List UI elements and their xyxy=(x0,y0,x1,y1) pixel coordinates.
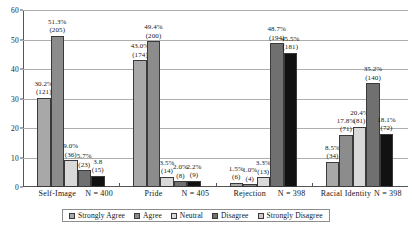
bar-count-label: (181) xyxy=(281,43,300,52)
bar-percent-label: 8.5% xyxy=(325,144,340,153)
bar-value-label: 2.2%(9) xyxy=(187,163,202,180)
legend-item[interactable]: Disagree xyxy=(212,211,248,220)
bar-group: 30.2%(121)51.3%(205)9.0%(36)5.7%(23)3.8(… xyxy=(23,10,119,187)
legend-swatch-icon xyxy=(258,213,264,219)
y-tick-label: 60 xyxy=(11,6,19,15)
bar[interactable] xyxy=(78,170,92,187)
bar-group-bars: 1.5%(6)1.0%(4)3.3%(13)48.7%(194)45.5%(18… xyxy=(216,10,312,187)
bar[interactable] xyxy=(64,160,78,187)
bar-group-bars: 8.5%(34)17.8%(71)20.4%(81)35.2%(140)18.1… xyxy=(312,10,408,187)
y-tick-label: 0 xyxy=(15,183,19,192)
bar[interactable] xyxy=(230,183,244,187)
bar[interactable] xyxy=(243,184,257,187)
x-category-label: Rejection xyxy=(234,189,266,198)
bar[interactable] xyxy=(353,127,367,187)
legend-item[interactable]: Strongly Disagree xyxy=(258,211,323,220)
legend-swatch-icon xyxy=(134,213,140,219)
bar[interactable] xyxy=(147,41,161,187)
bar[interactable] xyxy=(284,53,298,187)
bar-slot: 2.0%(8) xyxy=(174,10,188,187)
y-tick-label: 50 xyxy=(11,35,19,44)
bar[interactable] xyxy=(91,176,105,187)
bar-count-label: (15) xyxy=(92,166,104,175)
bar-count-label: (72) xyxy=(377,124,396,133)
bar-count-label: (23) xyxy=(77,161,92,170)
legend-label: Agree xyxy=(143,211,162,220)
bar-slot: 20.4%(81) xyxy=(353,10,367,187)
plot-area: 0102030405060 30.2%(121)51.3%(205)9.0%(3… xyxy=(23,10,408,187)
bar-group-bars: 30.2%(121)51.3%(205)9.0%(36)5.7%(23)3.8(… xyxy=(23,10,119,187)
bar-percent-label: 2.2% xyxy=(187,163,202,172)
bar-percent-label: 9.0% xyxy=(63,142,78,151)
legend-swatch-icon xyxy=(212,213,218,219)
x-sample-size-label: N = 400 xyxy=(85,189,113,198)
bar-value-label: 8.5%(34) xyxy=(325,144,340,161)
bar-slot: 45.5%(181) xyxy=(284,10,298,187)
bar-group: 43.0%(174)49.4%(200)3.5%(14)2.0%(8)2.2%(… xyxy=(119,10,215,187)
bar-value-label: 45.5%(181) xyxy=(281,35,300,52)
bar-slot: 2.2%(9) xyxy=(187,10,201,187)
bar-percent-label: 45.5% xyxy=(281,35,300,44)
bar-slot: 1.5%(6) xyxy=(230,10,244,187)
bar-slot: 3.5%(14) xyxy=(160,10,174,187)
bar-group: 8.5%(34)17.8%(71)20.4%(81)35.2%(140)18.1… xyxy=(312,10,408,187)
bar-value-label: 3.8(15) xyxy=(92,158,104,175)
legend-label: Disagree xyxy=(221,211,248,220)
bar-count-label: (34) xyxy=(325,152,340,161)
bar-value-label: 3.3%(13) xyxy=(256,159,271,176)
bar-percent-label: 18.1% xyxy=(377,116,396,125)
bar-slot: 35.2%(140) xyxy=(366,10,380,187)
y-tick-label: 30 xyxy=(11,94,19,103)
bar[interactable] xyxy=(133,60,147,187)
bar[interactable] xyxy=(270,43,284,187)
bar-slot: 51.3%(205) xyxy=(51,10,65,187)
bar-percent-label: 5.7% xyxy=(77,152,92,161)
bar[interactable] xyxy=(51,36,65,187)
y-tick-label: 10 xyxy=(11,153,19,162)
legend-label: Neutral xyxy=(180,211,203,220)
grouped-bar-chart: 0102030405060 30.2%(121)51.3%(205)9.0%(3… xyxy=(0,0,412,234)
bar-slot: 9.0%(36) xyxy=(64,10,78,187)
bar[interactable] xyxy=(174,181,188,187)
bar-slot: 3.8(15) xyxy=(91,10,105,187)
x-axis-labels: Self-ImageN = 400PrideN = 405RejectionN … xyxy=(23,189,408,203)
bar-slot: 1.0%(4) xyxy=(243,10,257,187)
bar[interactable] xyxy=(326,162,340,187)
x-sample-size-label: N = 398 xyxy=(374,189,402,198)
x-axis-separator xyxy=(216,183,217,187)
y-tick-label: 20 xyxy=(11,124,19,133)
bar[interactable] xyxy=(160,177,174,187)
bar-percent-label: 3.3% xyxy=(256,159,271,168)
legend-item[interactable]: Strongly Agree xyxy=(69,211,125,220)
bar[interactable] xyxy=(257,177,271,187)
legend-label: Strongly Disagree xyxy=(267,211,323,220)
chart-legend: Strongly AgreeAgreeNeutralDisagreeStrong… xyxy=(62,209,330,222)
x-category-label: Self-Image xyxy=(38,189,76,198)
x-category-label: Racial Identity xyxy=(321,189,371,198)
bar-slot: 49.4%(200) xyxy=(147,10,161,187)
legend-label: Strongly Agree xyxy=(78,211,125,220)
bar[interactable] xyxy=(37,98,51,187)
legend-item[interactable]: Neutral xyxy=(171,211,203,220)
bar-count-label: (13) xyxy=(256,168,271,177)
bar-slot: 8.5%(34) xyxy=(326,10,340,187)
bar-group: 1.5%(6)1.0%(4)3.3%(13)48.7%(194)45.5%(18… xyxy=(216,10,312,187)
x-sample-size-label: N = 398 xyxy=(278,189,306,198)
bar-slot: 5.7%(23) xyxy=(78,10,92,187)
bar-value-label: 18.1%(72) xyxy=(377,116,396,133)
x-axis-separator xyxy=(312,183,313,187)
bar[interactable] xyxy=(366,83,380,187)
x-axis-separator xyxy=(119,183,120,187)
x-sample-size-label: N = 405 xyxy=(181,189,209,198)
x-category-label: Pride xyxy=(145,189,163,198)
bar-slot: 30.2%(121) xyxy=(37,10,51,187)
bar[interactable] xyxy=(339,135,353,188)
legend-item[interactable]: Agree xyxy=(134,211,162,220)
legend-swatch-icon xyxy=(171,213,177,219)
bar[interactable] xyxy=(187,181,201,187)
legend-swatch-icon xyxy=(69,213,75,219)
bar-count-label: (9) xyxy=(187,171,202,180)
bar[interactable] xyxy=(380,134,394,187)
bar-percent-label: 3.8 xyxy=(92,158,104,167)
bar-value-label: 5.7%(23) xyxy=(77,152,92,169)
